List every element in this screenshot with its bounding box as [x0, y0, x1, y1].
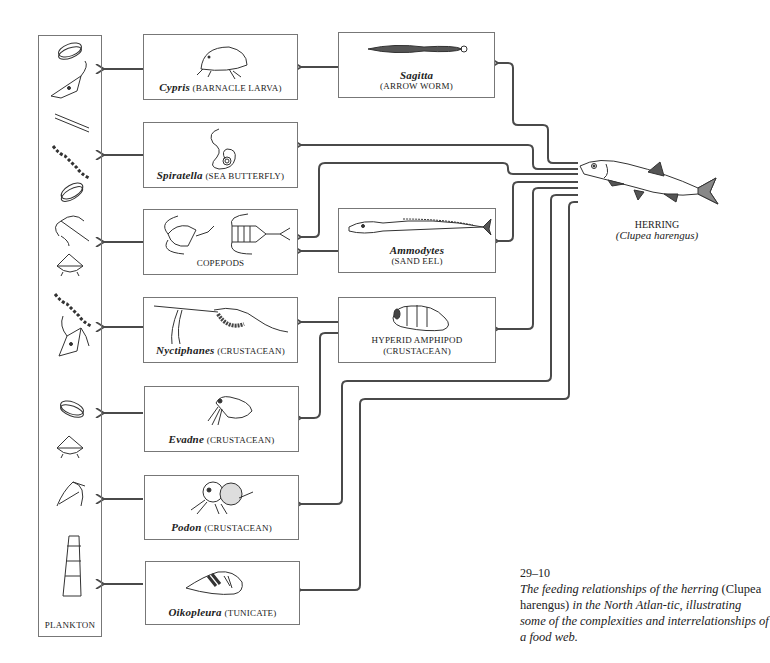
sand-eel-icon	[343, 213, 493, 243]
sea-butterfly-icon	[199, 127, 249, 171]
node-spiratella: Spiratella (SEA BUTTERFLY)	[143, 122, 298, 188]
herring-sci-label: (Clupea harengus)	[612, 230, 702, 241]
evadne-common-label: (CRUSTACEAN)	[207, 435, 275, 445]
node-sagitta: Sagitta(ARROW WORM)	[338, 32, 495, 98]
cypris-common-label: (BARNACLE LARVA)	[193, 83, 282, 93]
hyperid-common2-label: (CRUSTACEAN)	[339, 346, 495, 357]
figure-number: 29–10	[520, 565, 770, 581]
oikopleura-sci-label: Oikopleura	[168, 606, 221, 618]
nyctiphanes-krill-icon	[148, 300, 296, 346]
arrow-worm-icon	[364, 39, 474, 59]
podon-sci-label: Podon	[171, 521, 201, 533]
spiratella-common-label: (SEA BUTTERFLY)	[205, 171, 284, 181]
sagitta-common-label: (ARROW WORM)	[339, 81, 494, 92]
caption-part1: The feeding relationships of the herring	[520, 582, 718, 596]
node-nyctiphanes: Nyctiphanes (CRUSTACEAN)	[143, 297, 298, 363]
spiratella-sci-label: Spiratella	[157, 169, 203, 181]
hyperid-common-label: HYPERID AMPHIPOD	[339, 335, 495, 346]
ammodytes-sci-label: Ammodytes	[390, 244, 444, 256]
podon-common-label: (CRUSTACEAN)	[204, 523, 272, 533]
figure-caption: 29–10 The feeding relationships of the h…	[520, 565, 770, 645]
oikopleura-common-label: (TUNICATE)	[225, 608, 277, 618]
podon-icon	[185, 478, 265, 520]
node-oikopleura: Oikopleura (TUNICATE)	[145, 561, 300, 625]
barnacle-larva-icon	[189, 41, 259, 81]
node-cypris: Cypris (BARNACLE LARVA)	[143, 34, 298, 100]
node-podon: Podon (CRUSTACEAN)	[144, 475, 299, 540]
ammodytes-common-label: (SAND EEL)	[339, 256, 495, 267]
nyctiphanes-common-label: (CRUSTACEAN)	[217, 346, 285, 356]
hyperid-amphipod-icon	[387, 302, 457, 334]
plankton-label: PLANKTON	[39, 620, 101, 630]
node-evadne: Evadne (CRUSTACEAN)	[144, 386, 299, 452]
plankton-column: PLANKTON	[38, 35, 102, 637]
node-ammodytes: Ammodytes(SAND EEL)	[338, 208, 496, 273]
sagitta-sci-label: Sagitta	[400, 69, 433, 81]
copepods-label: COPEPODS	[144, 258, 297, 269]
copepods-icon	[148, 212, 296, 256]
plankton-organisms-icon	[39, 36, 101, 616]
evadne-icon	[200, 391, 260, 431]
herring-fish-icon	[578, 152, 723, 210]
node-copepods: COPEPODS	[143, 209, 298, 275]
evadne-sci-label: Evadne	[169, 433, 204, 445]
nyctiphanes-sci-label: Nyctiphanes	[156, 344, 214, 356]
herring-label: HERRING (Clupea harengus)	[612, 219, 702, 241]
node-hyperid-amphipod: HYPERID AMPHIPOD(CRUSTACEAN)	[338, 297, 496, 363]
oikopleura-tunicate-icon	[184, 566, 264, 600]
cypris-sci-label: Cypris	[159, 81, 190, 93]
